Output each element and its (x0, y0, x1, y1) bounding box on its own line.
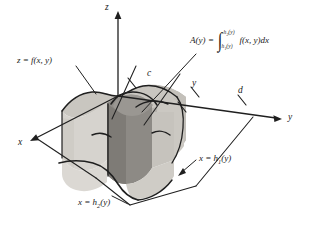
surface-equation-label: z = f(x, y) (17, 56, 52, 65)
z-axis-label: z (105, 3, 109, 13)
h1-boundary-label-main: x = h (199, 153, 218, 163)
tick-c (128, 78, 136, 88)
cross-section-edge (107, 103, 126, 184)
integral-lower-limit: h1(y) (222, 43, 233, 51)
integral-upper-limit: h2(y) (224, 29, 235, 37)
h2-boundary-label: x = h2(y) (78, 198, 110, 209)
y-axis-label: y (288, 113, 292, 123)
integral-upper-limit-tail: (y) (228, 29, 234, 35)
tick-d (238, 95, 246, 105)
area-integral-equals: = (209, 35, 214, 45)
z-axis-arrowhead (115, 11, 122, 19)
tick-label-d: d (238, 86, 243, 96)
tick-label-c: c (147, 69, 151, 79)
h2-boundary-label-tail: (y) (100, 197, 110, 207)
h2-boundary-label-main: x = h (78, 197, 97, 207)
h1-boundary-label: x = h1(y) (199, 154, 231, 165)
area-integral-expression: A(y) = h2(y) ∫ h1(y) f(x, y)dx (190, 30, 269, 50)
tick-y (191, 87, 199, 97)
d-plane-line (196, 117, 253, 186)
tick-label-y: y (192, 79, 196, 89)
area-integral-lhs: A(y) (190, 35, 206, 45)
h1-boundary-label-tail: (y) (221, 153, 231, 163)
integral-lower-limit-tail: (y) (226, 43, 232, 49)
solid-region (62, 85, 186, 199)
y-axis-arrowhead (273, 115, 282, 122)
cross-section-figure: z x y c y d z = f(x, y) x = h1(y) x = h2… (0, 0, 311, 229)
integral-integrand: f(x, y)dx (240, 35, 269, 45)
integral-sign-group: h2(y) ∫ h1(y) (217, 30, 239, 50)
leader-surface-label (76, 66, 96, 94)
solid-right-bottom-face (152, 112, 174, 168)
x-axis-label: x (18, 138, 22, 148)
x-axis-arrowhead (30, 134, 39, 141)
